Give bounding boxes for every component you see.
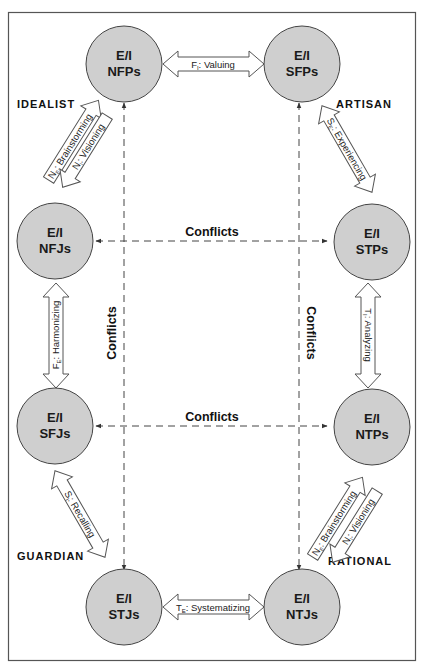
- node-ntjs: E/I NTJs: [264, 569, 340, 645]
- node-nfjs-line2: NFJs: [39, 241, 71, 256]
- node-ntps: E/I NTPs: [334, 389, 410, 465]
- recalling-text: : Recalling: [66, 495, 98, 539]
- harmonizing-text: : Harmonizing: [50, 301, 61, 360]
- node-stjs: E/I STJs: [86, 569, 162, 645]
- conflict-lines: [96, 103, 327, 570]
- node-nfjs: E/I NFJs: [17, 203, 93, 279]
- node-sfps-line2: SFPs: [286, 64, 319, 79]
- conflicts-label-left: Conflicts: [105, 306, 119, 360]
- conflicts-label-top: Conflicts: [185, 225, 239, 239]
- analyzing-arrow: TI: Analyzing: [355, 283, 381, 388]
- node-stjs-line2: STJs: [108, 607, 139, 622]
- node-stps: E/I STPs: [334, 204, 410, 280]
- node-ntps-line1: E/I: [364, 411, 380, 426]
- node-sfjs: E/I SFJs: [17, 388, 93, 464]
- node-sfjs-line2: SFJs: [39, 426, 70, 441]
- node-sfps: E/I SFPs: [264, 26, 340, 102]
- node-stjs-line1: E/I: [116, 591, 132, 606]
- analyzing-text: : Analyzing: [363, 316, 374, 362]
- systematizing-text: : Systematizing: [186, 602, 250, 613]
- experiencing-arrow: SE: Experiencing: [312, 100, 383, 199]
- recalling-arrow: SI: Recalling: [45, 465, 116, 564]
- temperament-guardian: GUARDIAN: [17, 550, 84, 562]
- experiencing-text: : Experiencing: [330, 125, 370, 183]
- node-ntjs-line2: NTJs: [286, 607, 318, 622]
- temperament-artisan: ARTISAN: [336, 98, 392, 110]
- svg-text:TI: Analyzing: TI: Analyzing: [362, 308, 374, 361]
- svg-text:FE: Harmonizing: FE: Harmonizing: [50, 301, 62, 369]
- node-ntps-line2: NTPs: [355, 427, 388, 442]
- svg-text:TE: Systematizing: TE: Systematizing: [176, 602, 250, 614]
- node-nfjs-line1: E/I: [47, 225, 63, 240]
- svg-text:FI: Valuing: FI: Valuing: [191, 59, 235, 71]
- node-sfps-line1: E/I: [294, 48, 310, 63]
- valuing-arrow: FI: Valuing: [163, 51, 264, 77]
- node-nfps-line2: NFPs: [107, 64, 140, 79]
- conflicts-label-right: Conflicts: [304, 306, 318, 360]
- harmonizing-arrow: FE: Harmonizing: [43, 283, 69, 388]
- node-stps-line1: E/I: [364, 226, 380, 241]
- conflicts-label-bottom: Conflicts: [185, 410, 239, 424]
- svg-text:SE: Experiencing: SE: Experiencing: [324, 116, 370, 183]
- systematizing-arrow: TE: Systematizing: [163, 594, 264, 620]
- personality-diagram: Conflicts Conflicts Conflicts Conflicts …: [0, 0, 424, 667]
- node-nfps: E/I NFPs: [86, 26, 162, 102]
- valuing-text: : Valuing: [199, 59, 235, 70]
- svg-text:SI: Recalling: SI: Recalling: [61, 489, 98, 540]
- node-sfjs-line1: E/I: [47, 410, 63, 425]
- node-ntjs-line1: E/I: [294, 591, 310, 606]
- node-nfps-line1: E/I: [116, 48, 132, 63]
- temperament-idealist: IDEALIST: [17, 98, 75, 110]
- node-stps-line2: STPs: [356, 242, 389, 257]
